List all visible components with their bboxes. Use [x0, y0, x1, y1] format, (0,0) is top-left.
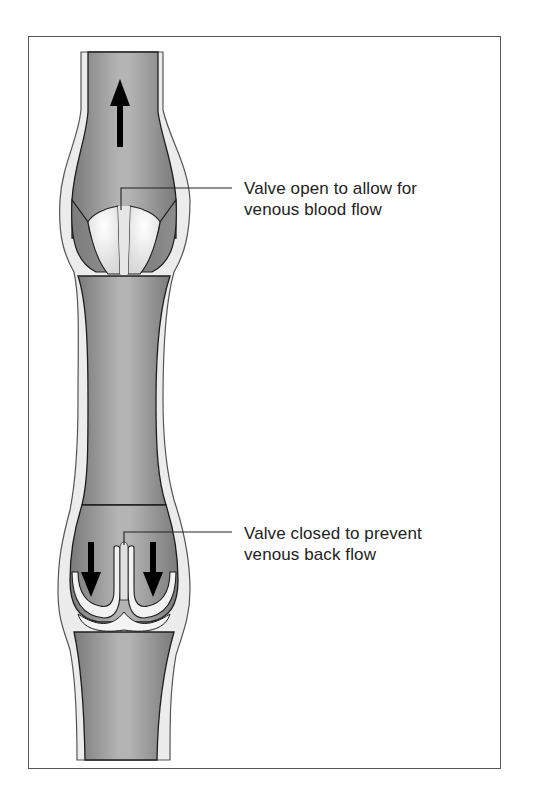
lumen-middle	[78, 276, 170, 505]
label-valve-open-line2: venous blood flow	[244, 199, 417, 220]
vein-illustration	[0, 0, 534, 800]
label-valve-open-line1: Valve open to allow for	[244, 178, 417, 199]
label-valve-closed: Valve closed to prevent venous back flow	[244, 523, 422, 565]
label-valve-closed-line1: Valve closed to prevent	[244, 523, 422, 544]
label-valve-closed-line2: venous back flow	[244, 544, 422, 565]
label-valve-open: Valve open to allow for venous blood flo…	[244, 178, 417, 220]
